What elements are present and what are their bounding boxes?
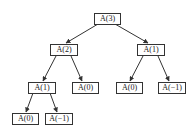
edge-arrow-n3-n8 (50, 93, 57, 112)
node-a3-root: A(3) (94, 13, 121, 25)
node-a0-right: A(0) (116, 82, 143, 94)
edge-arrow-n0-n1 (66, 24, 98, 43)
edge-arrow-n2-n5 (130, 56, 143, 81)
edge-arrow-n0-n2 (115, 24, 148, 43)
node-a2: A(2) (50, 44, 78, 56)
node-a1-left: A(1) (28, 82, 56, 94)
node-a0-bottom: A(0) (12, 113, 39, 125)
edge-arrow-n1-n3 (43, 56, 56, 81)
node-a-neg1-bottom: A(−1) (45, 113, 73, 125)
edge-arrow-n2-n6 (158, 56, 169, 81)
recursion-tree-diagram: A(3) A(2) A(1) A(1) A(0) A(0) A(−1) A(0)… (0, 0, 196, 133)
edge-arrow-n1-n4 (71, 56, 82, 81)
edge-arrow-n3-n7 (26, 93, 33, 112)
node-a1-right: A(1) (137, 44, 165, 56)
node-a-neg1-right: A(−1) (158, 82, 186, 94)
node-a0-mid: A(0) (72, 82, 99, 94)
